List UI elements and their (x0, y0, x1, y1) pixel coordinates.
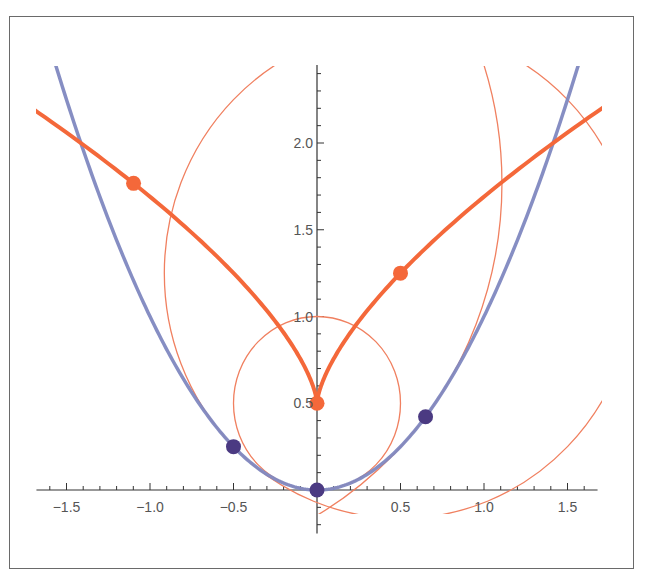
x-tick-label: 0.5 (391, 499, 411, 515)
x-tick-label: −0.5 (220, 499, 248, 515)
y-tick-label: 2.0 (294, 135, 314, 151)
y-tick-label: 1.5 (294, 222, 314, 238)
parabola-point (418, 409, 433, 424)
osculating-circle (0, 0, 502, 566)
x-tick-label: 1.0 (474, 499, 494, 515)
x-tick-label: −1.0 (136, 499, 164, 515)
evolute-chart: −1.5−1.0−0.50.51.01.50.51.01.52.0 (0, 0, 647, 582)
osculating-circles (0, 0, 637, 566)
axes (36, 65, 597, 533)
parabola-point (310, 483, 325, 498)
y-tick-label: 1.0 (294, 309, 314, 325)
tick-labels: −1.5−1.0−0.50.51.01.50.51.01.52.0 (53, 135, 578, 515)
parabola-point (226, 439, 241, 454)
y-tick-label: 0.5 (294, 395, 314, 411)
x-tick-label: 1.5 (558, 499, 578, 515)
curvature-center-point (126, 176, 141, 191)
x-tick-label: −1.5 (53, 499, 81, 515)
curvature-center-point (393, 266, 408, 281)
